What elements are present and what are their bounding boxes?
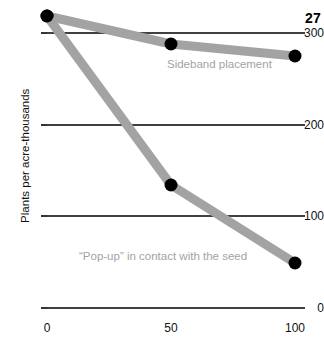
data-point-popup-0	[41, 10, 54, 23]
data-point-sideband-100	[289, 50, 302, 63]
ytick-label-200: 200	[286, 119, 324, 131]
chart-figure: 27 300 20	[0, 0, 324, 349]
data-point-popup-100	[289, 257, 302, 270]
data-point-sideband-50	[165, 38, 178, 51]
ytick-label-100: 100	[286, 210, 324, 222]
y-tick-marks	[41, 33, 47, 308]
line-chart-plot	[0, 0, 324, 349]
y-axis-label: Plants per acre-thousands	[20, 66, 32, 246]
ytick-label-0: 0	[286, 302, 324, 314]
data-point-popup-50	[165, 179, 178, 192]
xtick-label-0: 0	[27, 322, 67, 334]
xtick-label-50: 50	[151, 322, 191, 334]
ytick-label-300: 300	[286, 27, 324, 39]
series-label-popup-in-contact-with-seed: “Pop-up” in contact with the seed	[79, 251, 247, 263]
xtick-label-100: 100	[275, 322, 315, 334]
series-label-sideband-placement: Sideband placement	[167, 59, 272, 71]
